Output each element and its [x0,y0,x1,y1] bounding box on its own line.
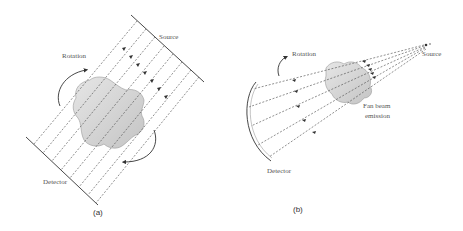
panel-a [26,15,204,205]
rotation-label-a: Rotation [62,53,86,60]
detector-line-a [26,137,98,205]
source-line-a [131,15,204,82]
source-label-a: Source [159,34,178,41]
source-label-b: Source [422,51,441,58]
detector-label-a: Detector [43,179,67,186]
panel-b [247,43,431,161]
fan-beam-label-line2: emission [365,113,390,120]
rotation-arrow-b [278,57,286,76]
diagram-canvas [0,0,463,231]
source-point-b [425,43,431,46]
detector-label-b: Detector [267,168,291,175]
panel-label-b: (b) [293,206,303,214]
fan-beam-label-line1: Fan beam [363,103,390,110]
rotation-label-b: Rotation [292,51,316,58]
panel-label-a: (a) [93,209,103,217]
detector-arc-b [247,82,271,161]
